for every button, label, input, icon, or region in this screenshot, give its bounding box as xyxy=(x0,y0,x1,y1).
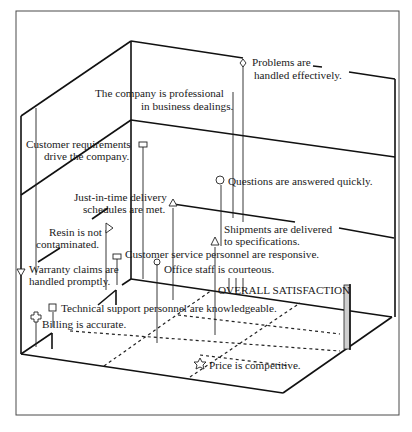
label-jit-1: Just-in-time delivery xyxy=(74,191,167,203)
overall-satisfaction-label: OVERALL SATISFACTION xyxy=(218,284,350,296)
label-shipments-1: Shipments are delivered xyxy=(224,223,333,235)
label-resin-1: Resin is not xyxy=(49,226,103,238)
label-customer-service: Customer service personnel are responsiv… xyxy=(125,248,319,260)
label-problems-1: Problems are xyxy=(252,56,311,68)
label-warranty-1: Warranty claims are xyxy=(29,263,119,275)
diamond-icon xyxy=(240,59,246,67)
cross-icon xyxy=(31,312,41,322)
label-billing: Billing is accurate. xyxy=(42,318,126,330)
label-requirements-1: Customer requirements xyxy=(26,138,131,150)
label-shipments-2: to specifications. xyxy=(224,235,300,247)
label-jit-2: schedules are met. xyxy=(83,203,166,215)
label-warranty-2: handled promptly. xyxy=(29,275,111,287)
label-office-staff: Office staff is courteous. xyxy=(164,263,274,275)
circle-icon xyxy=(216,176,224,184)
label-price: Price is competitive. xyxy=(209,359,301,371)
attribute-labels: Problems are handled effectively. The co… xyxy=(26,56,373,371)
square-icon xyxy=(49,304,56,311)
satisfaction-3d-diagram: OVERALL SATISFACTION Problems are xyxy=(0,0,412,432)
label-requirements-2: drive the company. xyxy=(44,150,130,162)
label-questions: Questions are answered quickly. xyxy=(228,175,373,187)
label-resin-2: contaminated. xyxy=(36,238,99,250)
rectangle-icon xyxy=(113,254,121,259)
down-triangle-icon xyxy=(17,269,25,276)
label-problems-2: handled effectively. xyxy=(254,69,342,81)
floor xyxy=(21,279,392,393)
label-professional-2: in business dealings. xyxy=(141,100,233,112)
rectangle-icon xyxy=(139,142,147,147)
flag-icon xyxy=(106,223,113,233)
triangle-icon xyxy=(169,199,177,206)
label-professional-1: The company is professional xyxy=(95,87,224,99)
star-icon xyxy=(194,358,206,369)
label-technical-support: Technical support personnel are knowledg… xyxy=(61,302,277,314)
club-icon xyxy=(154,259,160,270)
triangle-icon xyxy=(211,237,219,245)
